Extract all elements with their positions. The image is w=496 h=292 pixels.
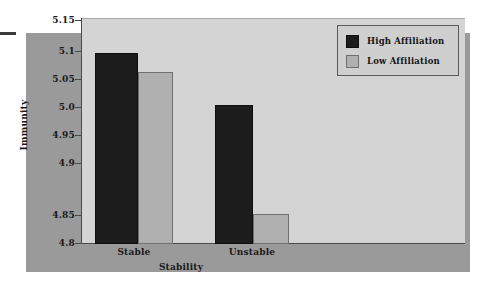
y-tick-mark — [75, 215, 81, 216]
y-tick-mark — [75, 107, 81, 108]
chart-screenshot: 5.15 5.1 5.05 5.0 4.95 4.9 4.85 4.8 Immu… — [0, 0, 496, 292]
y-tick-label-wrap: 5.05 — [20, 74, 75, 85]
y-tick-label-wrap: 4.8 — [20, 238, 75, 249]
y-axis-line — [81, 18, 82, 244]
legend-label-high-affiliation: High Affiliation — [367, 36, 445, 46]
legend-swatch-icon-low-affiliation — [346, 55, 359, 68]
legend-item-high-affiliation: High Affiliation — [346, 34, 445, 48]
y-tick-label: 5.15 — [31, 15, 75, 25]
bar-unstable-high-affiliation — [215, 105, 253, 244]
x-tick-label-unstable: Unstable — [212, 247, 292, 257]
y-tick-mark — [75, 163, 81, 164]
legend-label-low-affiliation: Low Affiliation — [367, 56, 440, 66]
y-tick-label: 5.0 — [31, 102, 75, 112]
legend: High Affiliation Low Affiliation — [337, 25, 459, 76]
y-tick-label: 4.8 — [31, 238, 75, 248]
bar-stable-low-affiliation — [138, 72, 173, 244]
legend-swatch-icon-high-affiliation — [346, 35, 359, 48]
y-tick-label: 4.85 — [31, 210, 75, 220]
y-tick-label: 5.05 — [31, 74, 75, 84]
y-axis-title: Immunity — [19, 85, 29, 165]
y-tick-label-wrap: 5.1 — [20, 46, 75, 57]
x-tick-label-stable: Stable — [94, 247, 174, 257]
y-tick-mark — [75, 243, 81, 244]
y-tick-label: 4.95 — [31, 130, 75, 140]
y-tick-label: 4.9 — [31, 158, 75, 168]
y-tick-mark — [75, 51, 81, 52]
bar-stable-high-affiliation — [95, 53, 138, 244]
bar-unstable-low-affiliation — [253, 214, 289, 244]
x-axis-title: Stability — [81, 262, 281, 272]
y-tick-label-wrap: 4.85 — [20, 210, 75, 221]
y-tick-label: 5.1 — [31, 46, 75, 56]
y-tick-label-wrap: 5.15 — [20, 15, 75, 26]
y-tick-mark — [75, 20, 81, 21]
page-edge-mark — [0, 32, 16, 35]
legend-item-low-affiliation: Low Affiliation — [346, 54, 440, 68]
y-tick-mark — [75, 79, 81, 80]
y-tick-mark — [75, 135, 81, 136]
